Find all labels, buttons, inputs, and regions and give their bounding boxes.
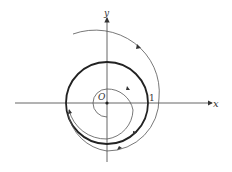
- x-axis: x: [15, 98, 219, 109]
- outer-arrow-3-icon: [68, 109, 72, 114]
- y-axis-label: y: [103, 8, 110, 18]
- origin-point: [105, 101, 108, 104]
- phase-portrait-diagram: x y O 1: [0, 0, 232, 172]
- tick-label-1: 1: [149, 93, 155, 103]
- x-axis-label: x: [213, 98, 219, 109]
- origin-label: O: [98, 92, 106, 102]
- inner-arrow-icon: [126, 86, 130, 90]
